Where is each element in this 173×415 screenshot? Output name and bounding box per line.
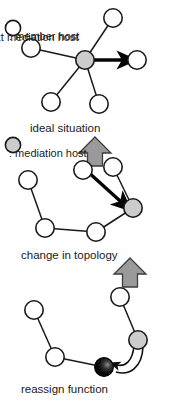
network-topology-diagram: ideal situation bbox=[0, 0, 173, 415]
member-host-node bbox=[111, 288, 129, 306]
member-host-node bbox=[90, 95, 108, 113]
member-host-node bbox=[25, 301, 43, 319]
member-host-node bbox=[104, 9, 122, 27]
panel-caption-reassign-function: reassign function bbox=[21, 383, 108, 395]
member-host-node bbox=[42, 93, 60, 111]
mediation-host-node bbox=[124, 199, 142, 217]
member-host-node bbox=[104, 158, 122, 176]
figure-root: ideal situation bbox=[0, 0, 173, 415]
member-host-node bbox=[87, 223, 105, 241]
panel-caption-ideal-situation: ideal situation bbox=[30, 122, 100, 134]
member-host-node bbox=[74, 161, 92, 179]
member-host-node bbox=[36, 219, 54, 237]
mediation-host-node bbox=[76, 51, 94, 69]
legend-label-mediation-host: : mediation host bbox=[9, 147, 87, 159]
member-host-node bbox=[19, 171, 37, 189]
next-mediation-host-node bbox=[95, 358, 114, 377]
rotated-diagram-stage: ideal situation bbox=[0, 0, 173, 415]
mediation-host-node bbox=[129, 331, 147, 349]
member-host-node bbox=[128, 51, 146, 69]
legend-label-next-mediation-host: : next mediation host bbox=[0, 31, 79, 43]
panel-caption-change-in-topology: change in topology bbox=[21, 249, 118, 261]
member-host-node bbox=[46, 348, 64, 366]
